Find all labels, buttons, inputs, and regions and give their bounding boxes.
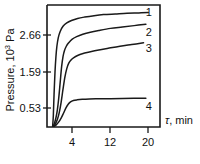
y-axis-title-main: Pressure, 10 — [4, 49, 16, 111]
curve-label-3: 3 — [146, 42, 152, 54]
y-axis-title: Pressure, 103 Pa — [3, 28, 16, 112]
curve-label-1: 1 — [146, 6, 152, 18]
y-axis-title-unit: Pa — [4, 28, 16, 45]
y-tick-label-0: 0.53 — [20, 102, 41, 114]
chart-background — [0, 0, 200, 164]
curve-label-4: 4 — [146, 100, 152, 112]
y-tick-label-2: 2.66 — [20, 29, 41, 41]
x-axis-title-rest: , min — [169, 114, 193, 126]
x-tick-label-20: 20 — [142, 136, 154, 148]
x-tick-label-4: 4 — [69, 136, 75, 148]
curve-label-2: 2 — [146, 26, 152, 38]
y-tick-label-1: 1.59 — [20, 66, 41, 78]
x-tick-label-12: 12 — [104, 136, 116, 148]
pressure-vs-time-chart: 2.66 1.59 0.53 4 12 20 Pressure, 103 Pa … — [0, 0, 200, 164]
x-axis-title: τ, min — [165, 114, 193, 126]
chart-svg: 2.66 1.59 0.53 4 12 20 Pressure, 103 Pa … — [0, 0, 200, 164]
